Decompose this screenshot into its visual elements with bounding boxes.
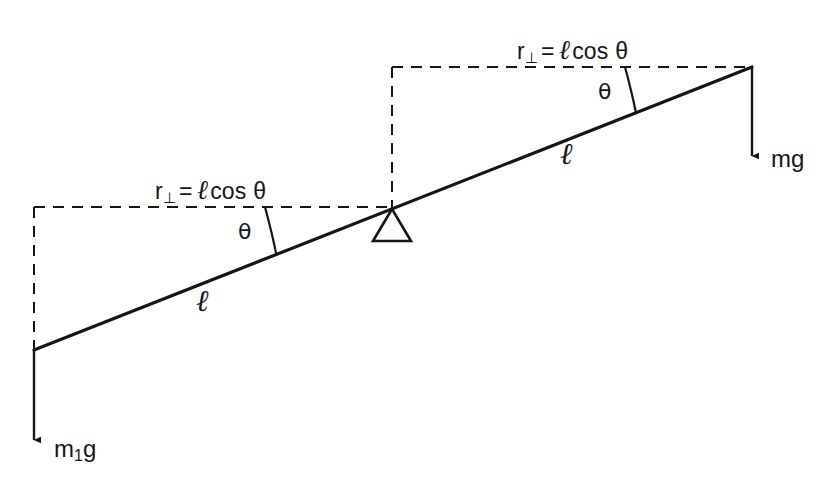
physics-diagram-figure: r⊥=ℓcos θ r⊥=ℓcos θ θ θ ℓ ℓ m1g mg	[0, 0, 823, 485]
lever-arm-label-left: r⊥=ℓcos θ	[155, 176, 266, 205]
lever-arm-label-right: r⊥=ℓcos θ	[517, 36, 628, 65]
force-left-subscript: 1	[74, 447, 83, 464]
force-left-gravity: g	[83, 435, 96, 462]
lever-arm-right-equals: =	[539, 38, 557, 64]
angle-arc-left	[265, 207, 276, 253]
angle-arc-right	[625, 67, 636, 113]
lever-arm-left-expression: cos θ	[210, 178, 266, 204]
lever-arm-left-perp-subscript: ⊥	[163, 189, 177, 206]
force-label-left: m1g	[54, 437, 96, 461]
lever-arm-left-ell: ℓ	[195, 174, 210, 205]
angle-label-right: θ	[598, 81, 611, 103]
beam-length-label-right: ℓ	[560, 139, 573, 169]
lever-arm-right-r: r	[517, 38, 525, 64]
lever-arm-right-expression: cos θ	[572, 38, 628, 64]
lever-arm-right-ell: ℓ	[557, 34, 572, 65]
angle-label-left: θ	[238, 221, 251, 243]
beam-length-label-left: ℓ	[196, 286, 209, 316]
lever-arm-left-r: r	[155, 178, 163, 204]
force-left-mass: m	[54, 435, 74, 462]
lever-arm-left-equals: =	[177, 178, 195, 204]
force-label-right: mg	[771, 147, 804, 171]
diagram-canvas	[0, 0, 823, 485]
lever-arm-right-perp-subscript: ⊥	[525, 49, 539, 66]
